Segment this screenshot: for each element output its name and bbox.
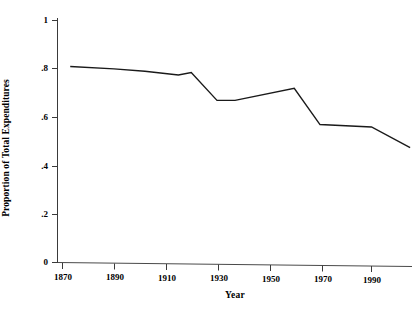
data-series-line bbox=[70, 66, 410, 147]
y-tick-label-02: .2 bbox=[26, 210, 48, 219]
x-tick-label-1890: 1890 bbox=[106, 273, 124, 282]
y-tick-label-04: .4 bbox=[26, 162, 48, 171]
y-tick-label-1: 1 bbox=[26, 16, 48, 25]
y-tick-label-0: 0 bbox=[26, 258, 48, 267]
y-tick-label-06: .6 bbox=[26, 113, 48, 122]
x-tick-label-1950: 1950 bbox=[262, 275, 280, 284]
x-tick-label-1930: 1930 bbox=[210, 274, 228, 283]
line-chart-plot bbox=[0, 0, 419, 311]
x-tick-label-1910: 1910 bbox=[158, 274, 176, 283]
x-tick-label-1990: 1990 bbox=[363, 276, 381, 285]
y-axis-title: Proportion of Total Expenditures bbox=[1, 79, 11, 217]
chart-figure: 1 .8 .6 .4 .2 0 1870 1890 1910 1930 1950… bbox=[0, 0, 419, 311]
y-tick-marks bbox=[52, 21, 58, 263]
y-tick-label-08: .8 bbox=[26, 64, 48, 73]
x-axis-title: Year bbox=[225, 290, 245, 300]
x-tick-label-1970: 1970 bbox=[314, 275, 332, 284]
x-axis-line bbox=[58, 263, 413, 267]
x-tick-label-1870: 1870 bbox=[54, 273, 72, 282]
